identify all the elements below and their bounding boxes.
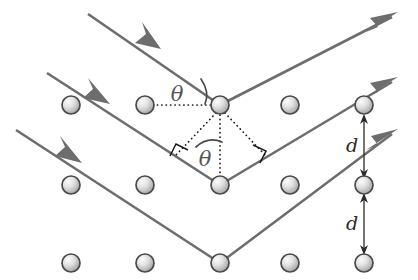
bragg-diffraction-figure: θ θ d d [0, 0, 418, 280]
bragg-diagram-canvas: θ θ d d [0, 0, 418, 280]
atom-r1-c0 [62, 176, 80, 194]
atom-r0-c0 [62, 96, 80, 114]
atom-r1-c1 [136, 176, 154, 194]
atom-r0-c2-vertex-top [211, 96, 229, 114]
atom-r2-c0 [62, 254, 80, 272]
atom-r2-c2-vertex-bottom [211, 254, 229, 272]
atom-r0-c4 [355, 96, 373, 114]
reflected-ray-bottom [220, 134, 392, 263]
atom-r1-c2-vertex-middle [211, 176, 229, 194]
atom-r2-c3 [281, 254, 299, 272]
atom-r2-c1 [136, 254, 154, 272]
reflected-arrowhead-bottom [366, 129, 398, 150]
spacing-d-upper [360, 114, 368, 179]
atom-r1-c4 [355, 176, 373, 194]
atom-r0-c1 [136, 96, 154, 114]
spacing-d-lower [360, 193, 368, 255]
atom-r0-c3 [281, 96, 299, 114]
ray-path-top [88, 12, 398, 105]
theta-upper-label: θ [171, 82, 184, 106]
incident-arrowhead-top [135, 22, 161, 49]
theta-lower-label: θ [199, 147, 212, 171]
incident-ray-top [88, 14, 220, 105]
reflected-ray-top [220, 17, 392, 105]
atom-r2-c4 [355, 254, 373, 272]
spacing-d-upper-label: d [346, 134, 358, 156]
atom-r1-c3 [281, 176, 299, 194]
right-angle-marks-group [170, 144, 266, 163]
ray-paths-group [16, 12, 398, 263]
spacing-d-lower-label: d [346, 212, 358, 234]
right-perpendicular-dotted-line [225, 113, 266, 156]
incident-ray-bottom [16, 130, 220, 263]
theta-lower-arc [196, 140, 222, 147]
